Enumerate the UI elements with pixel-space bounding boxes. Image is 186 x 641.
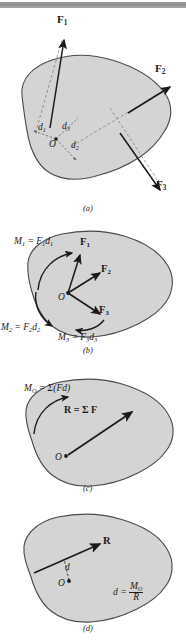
panel-b-label-f2: F2	[101, 263, 111, 275]
panel-c-origin-dot	[64, 454, 68, 458]
panel-c-label-mo: MO = Σ(Fd)	[24, 383, 70, 394]
panel-a-label-d2: d2	[71, 140, 79, 151]
panel-b-label-f1: F1	[80, 236, 90, 248]
panel-c-label-resultant: R = Σ F	[64, 404, 97, 415]
panel-a-label-f1: F1	[57, 13, 67, 27]
panel-b-caption: (b)	[83, 345, 93, 355]
panel-c-label-origin: O	[55, 452, 62, 462]
panel-d-label-origin: O	[58, 578, 65, 588]
panel-b-label-m1: M1 = F1d1	[14, 236, 53, 247]
panel-b-label-m2: M2 = F2d2	[1, 322, 40, 333]
panel-c-caption: (c)	[83, 483, 92, 493]
panel-a-caption: (a)	[83, 203, 93, 213]
panel-d-label-resultant: R	[103, 535, 111, 546]
panel-d-origin-dot	[67, 579, 71, 583]
panel-a-label-origin: O	[49, 139, 56, 149]
panel-d-label-d: d	[65, 562, 70, 572]
panel-a-label-d1: d1	[38, 122, 46, 133]
panel-b-label-f3: F3	[99, 304, 109, 316]
panel-d-label-formula: d = MOR	[113, 582, 143, 603]
panel-a-label-f3: F3	[156, 178, 166, 192]
figure-canvas	[0, 0, 186, 641]
panel-b-body	[28, 231, 173, 337]
panel-b-origin-dot	[66, 291, 70, 295]
panel-b-label-m3: M3 = F3d3	[58, 332, 97, 343]
panel-b-label-origin: O	[58, 292, 65, 302]
panel-c-body	[26, 379, 173, 486]
panel-d-caption: (d)	[83, 623, 93, 633]
panel-a-body	[22, 56, 171, 180]
panel-a-label-f2: F2	[155, 62, 165, 76]
panel-a-label-d3: d3	[62, 121, 70, 132]
